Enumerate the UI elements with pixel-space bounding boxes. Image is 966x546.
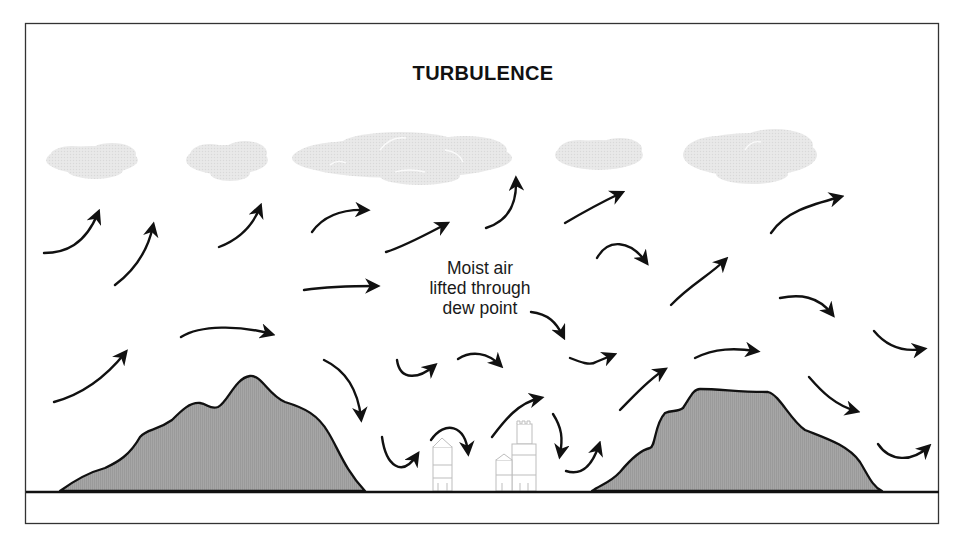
moist-air-annotation: Moist air lifted through dew point: [380, 258, 580, 318]
annotation-line: dew point: [380, 298, 580, 318]
cloud-icon: [555, 138, 643, 170]
building-small: [433, 438, 452, 491]
turbulence-diagram: TURBULENCE Moist air lifted through dew …: [0, 0, 966, 546]
diagram-title: TURBULENCE: [0, 62, 966, 85]
annotation-line: lifted through: [380, 278, 580, 298]
annotation-line: Moist air: [380, 258, 580, 278]
